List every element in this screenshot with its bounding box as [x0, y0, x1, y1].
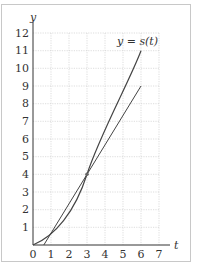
x-axis-label: t [174, 239, 179, 252]
svg-text:3: 3 [22, 186, 29, 199]
svg-text:5: 5 [120, 248, 127, 261]
graph: y t 1 2 3 4 5 6 7 8 9 10 11 12 0 1 2 3 4… [0, 0, 201, 275]
x-tick-labels: 0 1 2 3 4 5 6 7 [30, 248, 163, 261]
tangent-line [44, 86, 141, 245]
y-axis-label: y [29, 11, 37, 24]
svg-text:9: 9 [22, 80, 29, 93]
svg-text:4: 4 [102, 248, 109, 261]
svg-text:7: 7 [22, 115, 29, 128]
svg-text:3: 3 [84, 248, 91, 261]
svg-text:2: 2 [22, 203, 29, 216]
svg-text:6: 6 [22, 133, 29, 146]
svg-text:7: 7 [156, 248, 163, 261]
svg-text:1: 1 [48, 248, 55, 261]
svg-text:1: 1 [22, 221, 29, 234]
curve-label: y = s(t) [116, 35, 158, 48]
svg-text:2: 2 [66, 248, 73, 261]
svg-text:11: 11 [15, 44, 29, 57]
y-tick-labels: 1 2 3 4 5 6 7 8 9 10 11 12 [15, 27, 29, 234]
axes [33, 22, 170, 245]
svg-text:12: 12 [15, 27, 29, 40]
svg-text:4: 4 [22, 168, 29, 181]
svg-text:0: 0 [30, 248, 37, 261]
tangent-point [85, 173, 89, 177]
grid [33, 33, 159, 245]
svg-text:6: 6 [138, 248, 145, 261]
svg-text:8: 8 [22, 97, 29, 110]
svg-text:5: 5 [22, 150, 29, 163]
svg-text:10: 10 [15, 62, 29, 75]
